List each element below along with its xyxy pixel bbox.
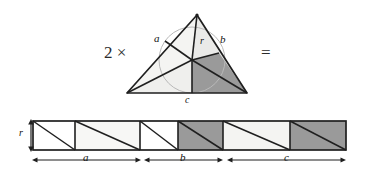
triangle-label-a: a [154, 33, 160, 44]
strip-group [33, 121, 346, 150]
triangle-label-b: b [220, 34, 226, 45]
multiplier-operator: 2 × [104, 44, 126, 61]
triangle-group [127, 13, 247, 93]
strip-segment-label-a: a [83, 152, 89, 163]
strip-segment-label-b: b [180, 152, 186, 163]
apex-vertex-dot [195, 13, 198, 16]
strip-segment-label-c: c [284, 152, 289, 163]
triangle-label-r: r [200, 36, 204, 46]
strip-label-r: r [19, 128, 23, 138]
figure-canvas [0, 0, 367, 174]
equals-operator: = [261, 44, 271, 61]
geometric-proof-figure: 2 × = a r b c r a b c [0, 0, 367, 174]
triangle-label-c: c [185, 95, 189, 105]
